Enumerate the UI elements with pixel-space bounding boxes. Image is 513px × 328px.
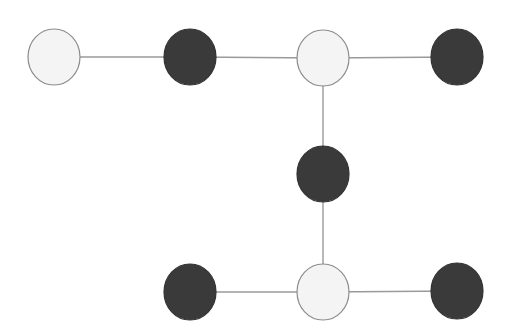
graph-diagram bbox=[0, 0, 513, 328]
node-n8-dark bbox=[431, 263, 483, 319]
node-n1-light bbox=[28, 29, 80, 85]
node-n3-light bbox=[297, 30, 349, 86]
node-n2-dark bbox=[164, 29, 216, 85]
node-n5-dark bbox=[297, 146, 349, 202]
node-n4-dark bbox=[431, 29, 483, 85]
node-n6-dark bbox=[164, 264, 216, 320]
node-n7-light bbox=[297, 264, 349, 320]
